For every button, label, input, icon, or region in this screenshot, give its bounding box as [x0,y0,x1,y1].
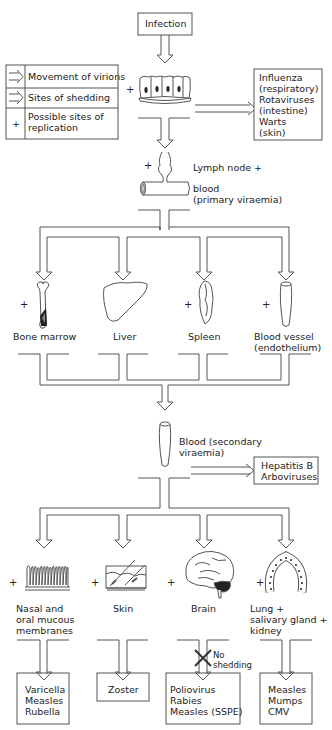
arrow-infection-down [157,35,173,63]
mucous-label: Nasal and [16,603,63,614]
virus-name: Measles [268,684,306,695]
skin-plus-icon: + [91,578,99,588]
epithelium-cells [139,76,191,104]
spleen-plus-icon: + [184,300,192,310]
secondary-viraemia-label-1: Blood (secondary [179,436,262,447]
infection-label: Infection [145,18,186,29]
blood-vessel-label: Blood vessel [254,331,314,342]
spleen-label: Spleen [188,331,220,342]
endothelium-label: (endothelium) [254,342,321,353]
salivary-label: salivary gland + [250,614,328,625]
local-shedding-line: Rotaviruses [259,94,314,105]
local-shedding-line: (skin) [259,127,286,138]
salivary-label: kidney [250,625,282,636]
brain-label: Brain [191,603,216,614]
legend-replication-label-2: replication [28,122,78,133]
primary-viraemia-label: (primary viraemia) [193,194,282,205]
salivary-label: Lung + [250,603,284,614]
liver-label: Liver [113,331,136,342]
legend-shedding-label: Sites of shedding [28,92,110,103]
virus-name: Rabies [170,695,202,706]
local-shedding-line: Warts [259,116,286,127]
mucous-membrane-shape [25,566,70,591]
virus-name: Varicella [25,684,65,695]
mucous-label: membranes [16,625,73,636]
skin-shape [106,560,146,590]
virus-name: Zoster [108,684,139,695]
no-shedding-label-2: shedding [213,660,252,671]
virus-name: Poliovirus [170,684,215,695]
salivary-plus-icon: + [256,578,264,588]
lymph-node-shape [141,152,190,195]
blood-vessel-shape [280,282,291,327]
virus-name: Rubella [25,706,60,717]
local-shedding-line: Influenza [259,72,303,83]
legend-movement-label: Movement of virions [28,71,125,82]
blood-shedding-line: Arboviruses [261,471,317,482]
local-shedding-line: (respiratory) [259,83,318,94]
virus-name: Measles (SSPE) [170,706,242,717]
virus-name: Measles [25,695,63,706]
skin-label: Skin [113,603,133,614]
bone-shape [37,282,48,328]
lymph-plus-icon: + [144,161,152,171]
brain-plus-icon: + [167,578,175,588]
secondary-blood-vessel-shape [159,422,170,467]
bone-marrow-label: Bone marrow [13,331,76,342]
blood-label: blood [193,183,219,194]
lymph-node-label: Lymph node + [193,162,262,173]
legend-plus-icon: + [12,118,20,129]
virus-name: CMV [268,706,289,717]
blood-shedding-line: Hepatitis B [261,460,313,471]
mucous-plus-icon: + [9,578,17,588]
local-shedding-line: (intestine) [259,105,308,116]
liver-shape [104,282,148,321]
vessel-plus-icon: + [262,300,270,310]
brain-shape [186,551,234,598]
secondary-viraemia-label-2: viraemia) [179,447,224,458]
mucous-label: oral mucous [16,614,74,625]
virus-name: Mumps [268,695,302,706]
salivary-gland-shape [269,556,303,592]
epithelium-plus-icon: + [126,85,134,95]
bone-plus-icon: + [20,300,28,310]
legend-replication-label-1: Possible sites of [28,111,104,122]
